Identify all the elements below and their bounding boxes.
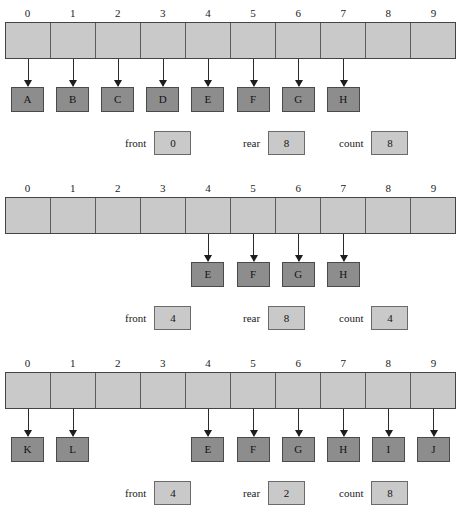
- array-cell[interactable]: [321, 198, 366, 233]
- array-index-label: 8: [366, 181, 411, 195]
- array-cell[interactable]: [51, 373, 96, 408]
- front-pointer-box[interactable]: 4: [154, 306, 191, 330]
- queue-element-box[interactable]: B: [56, 87, 89, 112]
- array-cell[interactable]: [411, 23, 455, 58]
- array-cell[interactable]: [366, 23, 411, 58]
- queue-element-box[interactable]: L: [56, 437, 89, 462]
- queue-element-box[interactable]: H: [327, 437, 360, 462]
- array-index-row: 0123456789: [5, 181, 456, 195]
- pointer-arrow-icon: [253, 409, 254, 436]
- pointer-arrow-icon: [73, 409, 74, 436]
- array-cell[interactable]: [321, 373, 366, 408]
- queue-element-box[interactable]: F: [237, 262, 270, 287]
- count-value-box[interactable]: 8: [371, 481, 408, 505]
- array-cell[interactable]: [6, 198, 51, 233]
- array-cell[interactable]: [51, 198, 96, 233]
- rear-pointer-box[interactable]: 8: [268, 131, 305, 155]
- front-pointer: front0: [125, 130, 191, 156]
- array-cell[interactable]: [366, 373, 411, 408]
- array-cell[interactable]: [186, 373, 231, 408]
- count-value: count4: [339, 305, 408, 331]
- array-cell[interactable]: [411, 198, 455, 233]
- pointer-arrow-icon: [208, 59, 209, 86]
- rear-pointer: rear2: [243, 480, 305, 506]
- array-index-label: 1: [50, 356, 95, 370]
- array-index-label: 8: [366, 356, 411, 370]
- pointer-arrow-icon: [298, 59, 299, 86]
- queue-status-row: front4rear2count8: [0, 480, 464, 506]
- array-index-label: 1: [50, 6, 95, 20]
- array-strip: [5, 372, 456, 409]
- queue-element-box[interactable]: G: [282, 87, 315, 112]
- queue-element-box[interactable]: G: [282, 262, 315, 287]
- queue-element-box[interactable]: E: [191, 262, 224, 287]
- pointer-arrow-icon: [118, 59, 119, 86]
- count-value: count8: [339, 480, 408, 506]
- queue-element-box[interactable]: H: [327, 262, 360, 287]
- array-strip: [5, 197, 456, 234]
- rear-pointer-label: rear: [243, 487, 260, 499]
- queue-element-box[interactable]: I: [372, 437, 405, 462]
- queue-element-box[interactable]: F: [237, 437, 270, 462]
- array-cell[interactable]: [6, 373, 51, 408]
- pointer-arrow-icon: [73, 59, 74, 86]
- array-index-label: 9: [411, 181, 456, 195]
- front-pointer-label: front: [125, 487, 146, 499]
- array-index-label: 4: [185, 181, 230, 195]
- array-cell[interactable]: [96, 23, 141, 58]
- pointer-arrow-icon: [343, 409, 344, 436]
- array-cell[interactable]: [231, 23, 276, 58]
- pointer-arrow-icon: [253, 59, 254, 86]
- array-cell[interactable]: [141, 198, 186, 233]
- pointer-arrow-icon: [343, 59, 344, 86]
- array-cell[interactable]: [51, 23, 96, 58]
- array-cell[interactable]: [231, 373, 276, 408]
- count-value-box[interactable]: 8: [371, 131, 408, 155]
- pointer-arrow-icon: [298, 234, 299, 261]
- rear-pointer-box[interactable]: 8: [268, 306, 305, 330]
- pointer-arrow-icon: [343, 234, 344, 261]
- array-index-label: 4: [185, 356, 230, 370]
- array-cell[interactable]: [366, 198, 411, 233]
- array-cell[interactable]: [6, 23, 51, 58]
- array-cell[interactable]: [276, 198, 321, 233]
- array-cell[interactable]: [411, 373, 455, 408]
- count-value-label: count: [339, 487, 363, 499]
- rear-pointer: rear8: [243, 305, 305, 331]
- front-pointer-box[interactable]: 4: [154, 481, 191, 505]
- array-index-label: 9: [411, 356, 456, 370]
- queue-element-box[interactable]: C: [101, 87, 134, 112]
- array-index-label: 3: [140, 181, 185, 195]
- array-index-label: 1: [50, 181, 95, 195]
- array-index-row: 0123456789: [5, 6, 456, 20]
- array-cell[interactable]: [276, 23, 321, 58]
- front-pointer-box[interactable]: 0: [154, 131, 191, 155]
- pointer-arrow-icon: [208, 409, 209, 436]
- queue-element-box[interactable]: A: [11, 87, 44, 112]
- rear-pointer-label: rear: [243, 312, 260, 324]
- array-cell[interactable]: [141, 373, 186, 408]
- array-cell[interactable]: [186, 23, 231, 58]
- queue-element-box[interactable]: E: [191, 437, 224, 462]
- queue-element-box[interactable]: F: [237, 87, 270, 112]
- array-strip: [5, 22, 456, 59]
- array-cell[interactable]: [231, 198, 276, 233]
- array-cell[interactable]: [96, 198, 141, 233]
- array-index-label: 5: [231, 6, 276, 20]
- rear-pointer-label: rear: [243, 137, 260, 149]
- array-cell[interactable]: [276, 373, 321, 408]
- array-cell[interactable]: [321, 23, 366, 58]
- count-value-box[interactable]: 4: [371, 306, 408, 330]
- array-cell[interactable]: [141, 23, 186, 58]
- queue-element-box[interactable]: G: [282, 437, 315, 462]
- queue-element-box[interactable]: D: [146, 87, 179, 112]
- queue-state-initial: 0123456789ABCDEFGHfront0rear8count8: [0, 0, 464, 174]
- array-cell[interactable]: [96, 373, 141, 408]
- queue-element-box[interactable]: K: [11, 437, 44, 462]
- queue-element-box[interactable]: E: [191, 87, 224, 112]
- queue-element-box[interactable]: J: [417, 437, 450, 462]
- rear-pointer-box[interactable]: 2: [268, 481, 305, 505]
- queue-element-box[interactable]: H: [327, 87, 360, 112]
- queue-status-row: front0rear8count8: [0, 130, 464, 156]
- array-cell[interactable]: [186, 198, 231, 233]
